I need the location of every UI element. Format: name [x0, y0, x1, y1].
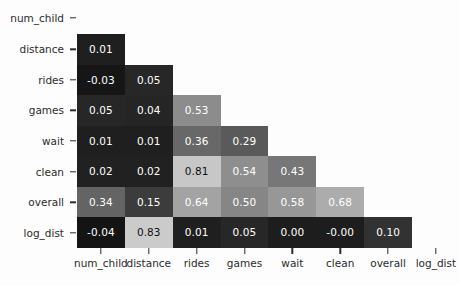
x-tick-mark [100, 248, 101, 254]
heatmap-cell: 0.53 [173, 95, 221, 126]
heatmap-cell: 0.04 [125, 95, 173, 126]
x-tick-mark [148, 248, 149, 254]
x-tick-mark [196, 248, 197, 254]
y-tick-mark [70, 110, 76, 111]
heatmap-cell: 0.02 [125, 156, 173, 187]
heatmap-cell: 0.15 [125, 187, 173, 218]
x-tick-mark [387, 248, 388, 254]
y-tick-mark [70, 232, 76, 233]
y-tick-mark [70, 49, 76, 50]
y-tick-label-distance: distance [20, 44, 65, 55]
y-tick-mark [70, 79, 76, 80]
x-tick-label-rides: rides [184, 258, 210, 269]
heatmap-cell: 0.01 [173, 217, 221, 248]
heatmap-cell: 0.58 [268, 187, 316, 218]
heatmap-cell: 0.02 [77, 156, 125, 187]
y-tick-mark [70, 201, 76, 202]
x-tick-mark [244, 248, 245, 254]
x-tick-mark [435, 248, 436, 254]
heatmap-cell: -0.04 [77, 217, 125, 248]
heatmap-plot-area: 0.01-0.030.050.050.040.530.010.010.360.2… [77, 34, 412, 248]
x-tick-label-distance: distance [127, 258, 172, 269]
x-tick-label-overall: overall [370, 258, 406, 269]
y-tick-mark [70, 140, 76, 141]
x-tick-mark [292, 248, 293, 254]
heatmap-cell: 0.05 [221, 217, 269, 248]
x-tick-label-num_child: num_child [74, 258, 128, 269]
y-tick-mark [70, 17, 76, 18]
heatmap-cell: 0.83 [125, 217, 173, 248]
x-tick-label-clean: clean [326, 258, 354, 269]
heatmap-cell: 0.01 [77, 34, 125, 65]
y-tick-label-overall: overall [28, 197, 64, 208]
heatmap-cell: 0.05 [125, 65, 173, 96]
y-tick-label-log_dist: log_dist [24, 227, 64, 238]
x-tick-mark [340, 248, 341, 254]
correlation-heatmap-figure: num_childdistanceridesgameswaitcleanover… [0, 0, 459, 285]
x-tick-label-wait: wait [281, 258, 303, 269]
y-tick-label-num_child: num_child [10, 13, 64, 24]
heatmap-cell: 0.29 [221, 126, 269, 157]
heatmap-cell: 0.01 [77, 126, 125, 157]
y-tick-label-rides: rides [38, 75, 64, 86]
heatmap-cell: 0.64 [173, 187, 221, 218]
heatmap-cell: 0.36 [173, 126, 221, 157]
heatmap-cell: -0.00 [316, 217, 364, 248]
heatmap-cell: 0.54 [221, 156, 269, 187]
heatmap-cell: 0.50 [221, 187, 269, 218]
y-tick-label-games: games [29, 105, 64, 116]
x-tick-label-log_dist: log_dist [416, 258, 456, 269]
heatmap-cell: 0.01 [125, 126, 173, 157]
y-tick-label-wait: wait [42, 136, 64, 147]
y-tick-label-clean: clean [36, 166, 64, 177]
heatmap-cell: 0.10 [364, 217, 412, 248]
heatmap-cell: -0.03 [77, 65, 125, 96]
x-tick-label-games: games [227, 258, 262, 269]
heatmap-cell: 0.00 [268, 217, 316, 248]
y-tick-mark [70, 171, 76, 172]
y-axis-tick-labels: num_childdistanceridesgameswaitcleanover… [0, 0, 64, 285]
heatmap-cell: 0.81 [173, 156, 221, 187]
heatmap-cell: 0.43 [268, 156, 316, 187]
heatmap-cell: 0.68 [316, 187, 364, 218]
heatmap-cell: 0.34 [77, 187, 125, 218]
heatmap-cell: 0.05 [77, 95, 125, 126]
